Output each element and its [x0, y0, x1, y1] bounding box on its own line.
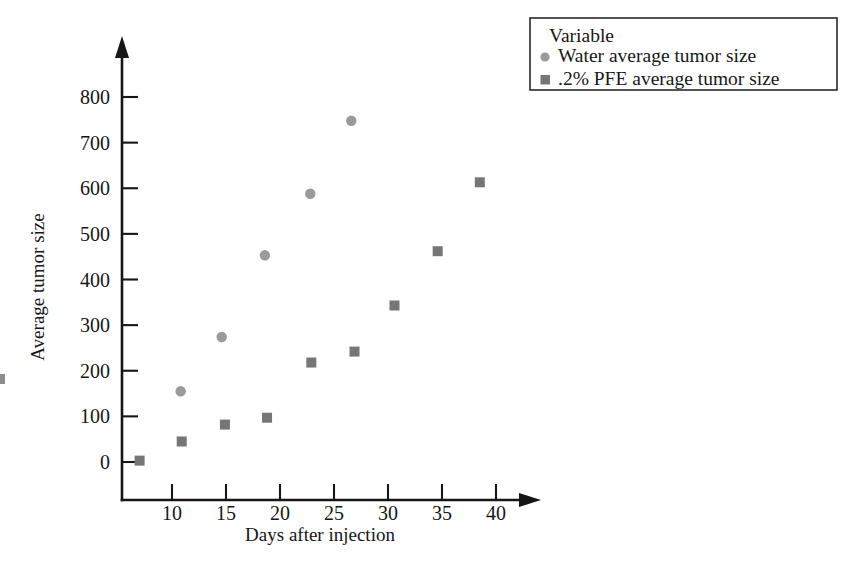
data-point-square	[220, 420, 230, 430]
scatter-plot-figure: 0100200300400500600700800 10152025303540…	[0, 0, 853, 573]
y-tick-label: 100	[80, 405, 110, 427]
y-axis-title: Average tumor size	[27, 213, 48, 360]
legend-entry-label: .2% PFE average tumor size	[558, 68, 779, 89]
y-axis-arrow-icon	[115, 36, 129, 58]
y-tick-label: 400	[80, 269, 110, 291]
x-axis-title: Days after injection	[245, 524, 395, 545]
legend-marker-square	[541, 75, 551, 85]
y-tick-label: 700	[80, 132, 110, 154]
data-point-square	[433, 246, 443, 256]
data-point-square	[475, 177, 485, 187]
y-tick-label: 300	[80, 314, 110, 336]
x-tick-label: 40	[486, 502, 506, 524]
y-tick-label: 800	[80, 86, 110, 108]
data-point-markers	[135, 116, 485, 466]
x-axis-ticks: 10152025303540	[162, 484, 506, 524]
legend-title: Variable	[549, 25, 614, 46]
data-point-square	[306, 358, 316, 368]
legend-entry-label: Water average tumor size	[558, 45, 756, 66]
data-point-square	[135, 456, 145, 466]
x-tick-label: 25	[324, 502, 344, 524]
y-tick-label: 0	[100, 451, 110, 473]
x-tick-label: 35	[432, 502, 452, 524]
y-axis-ticks: 0100200300400500600700800	[80, 86, 138, 473]
data-point-circle	[305, 189, 315, 199]
data-point-square	[262, 413, 272, 423]
x-tick-label: 30	[378, 502, 398, 524]
data-point-circle	[260, 250, 270, 260]
y-tick-label: 500	[80, 223, 110, 245]
data-point-circle	[346, 116, 356, 126]
data-point-circle	[175, 386, 185, 396]
x-axis-arrow-icon	[519, 493, 541, 507]
data-point-square	[177, 436, 187, 446]
data-point-circle	[216, 332, 226, 342]
legend-marker-circle	[540, 52, 549, 61]
x-tick-label: 10	[162, 502, 182, 524]
data-point-square	[389, 301, 399, 311]
legend: Variable Water average tumor size.2% PFE…	[530, 18, 837, 90]
y-tick-label: 600	[80, 177, 110, 199]
x-tick-label: 15	[216, 502, 236, 524]
page-edge-artifact	[0, 374, 5, 384]
plot-axes	[115, 36, 541, 507]
data-point-square	[350, 347, 360, 357]
x-tick-label: 20	[270, 502, 290, 524]
y-tick-label: 200	[80, 360, 110, 382]
